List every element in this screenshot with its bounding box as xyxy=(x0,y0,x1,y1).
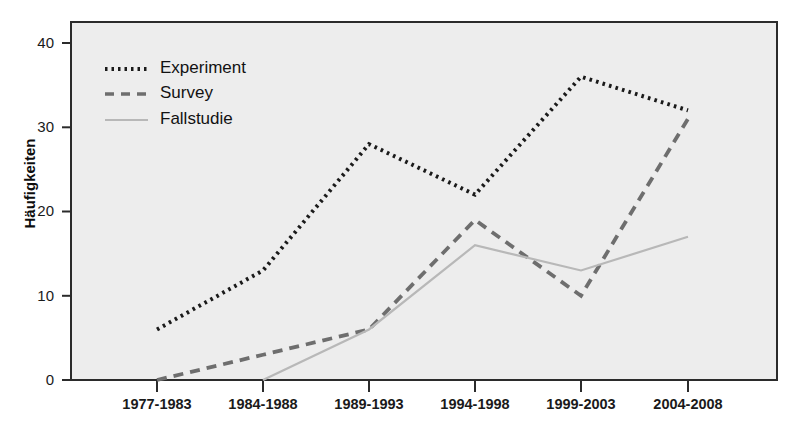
y-axis-ticks xyxy=(62,43,71,380)
legend-label-experiment: Experiment xyxy=(160,58,246,78)
x-axis-ticks xyxy=(157,380,688,392)
line-chart-canvas xyxy=(0,0,797,435)
x-tick-label-2004-2008: 2004-2008 xyxy=(633,396,743,412)
x-tick-label-1989-1993: 1989-1993 xyxy=(314,396,424,412)
x-tick-label-1994-1998: 1994-1998 xyxy=(420,396,530,412)
x-tick-label-1977-1983: 1977-1983 xyxy=(102,396,212,412)
chart-figure: 0 10 20 30 40 Häufigkeiten 1977-1983 198… xyxy=(0,0,797,435)
y-tick-label-10: 10 xyxy=(14,287,54,304)
legend-label-survey: Survey xyxy=(160,83,213,103)
y-axis-label: Häufigkeiten xyxy=(21,119,38,249)
y-tick-label-0: 0 xyxy=(14,371,54,388)
y-tick-label-40: 40 xyxy=(14,34,54,51)
x-tick-label-1999-2003: 1999-2003 xyxy=(526,396,636,412)
legend-label-fallstudie: Fallstudie xyxy=(160,109,233,129)
x-tick-label-1984-1988: 1984-1988 xyxy=(208,396,318,412)
